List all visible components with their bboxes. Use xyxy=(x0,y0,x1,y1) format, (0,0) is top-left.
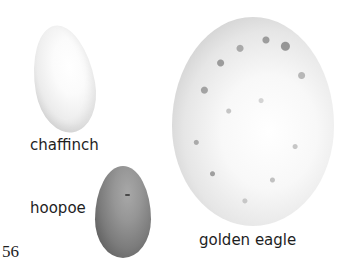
chaffinch-egg-illustration xyxy=(25,21,103,138)
book-page: chaffinch hoopoe golden eagle 56 xyxy=(0,0,351,272)
golden-eagle-egg-illustration xyxy=(172,17,334,226)
page-number: 56 xyxy=(2,243,19,260)
golden-eagle-label: golden eagle xyxy=(199,233,296,248)
chaffinch-label: chaffinch xyxy=(30,138,99,153)
egg-speck xyxy=(125,194,130,196)
hoopoe-egg-illustration xyxy=(95,166,151,258)
hoopoe-label: hoopoe xyxy=(30,201,86,216)
